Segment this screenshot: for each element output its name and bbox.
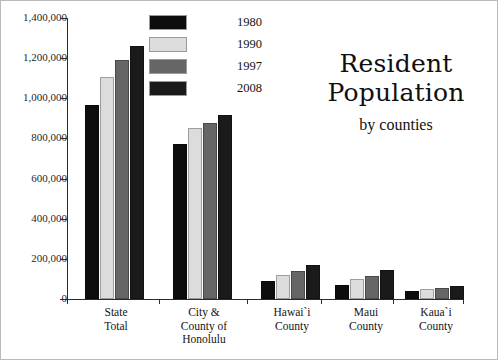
- legend-label-1980: 1980: [237, 14, 262, 30]
- y-tick: 600,000: [1, 179, 67, 180]
- legend: 1980 1990 1997 2008: [149, 13, 279, 101]
- legend-label-1997: 1997: [237, 58, 262, 74]
- bar: [291, 271, 305, 299]
- y-tick-mark: [60, 219, 67, 220]
- legend-item: 1980: [149, 13, 279, 33]
- y-tick-mark: [60, 179, 67, 180]
- y-tick: 1,000,000: [1, 98, 67, 99]
- bar: [350, 279, 364, 299]
- x-category-label: Kaua`i County: [391, 306, 481, 333]
- y-tick: 1,400,000: [1, 18, 67, 19]
- y-tick: 0: [1, 299, 67, 300]
- x-tick-mark: [159, 299, 160, 304]
- y-tick-label: 0: [11, 293, 67, 304]
- y-tick-mark: [60, 58, 67, 59]
- x-tick-mark: [463, 299, 464, 304]
- y-tick-mark: [60, 98, 67, 99]
- y-tick-mark: [60, 299, 67, 300]
- y-tick: 400,000: [1, 219, 67, 220]
- bar: [173, 144, 187, 299]
- legend-swatch-1990: [149, 37, 187, 52]
- chart-subtitle: by counties: [301, 116, 491, 134]
- bar: [130, 46, 144, 299]
- legend-label-1990: 1990: [237, 36, 262, 52]
- y-tick-mark: [60, 138, 67, 139]
- x-tick-mark: [393, 299, 394, 304]
- x-tick-mark: [67, 299, 68, 304]
- bar: [405, 291, 419, 299]
- bar: [365, 276, 379, 299]
- bar: [420, 289, 434, 299]
- y-tick: 1,200,000: [1, 58, 67, 59]
- y-tick: 200,000: [1, 259, 67, 260]
- x-tick-mark: [247, 299, 248, 304]
- legend-item: 1990: [149, 35, 279, 55]
- bar: [380, 270, 394, 299]
- y-tick-label: 1,400,000: [11, 12, 67, 23]
- legend-item: 1997: [149, 57, 279, 77]
- bar: [450, 286, 464, 299]
- legend-swatch-1997: [149, 59, 187, 74]
- bar: [188, 128, 202, 299]
- bar: [276, 275, 290, 299]
- legend-swatch-1980: [149, 15, 187, 30]
- bar: [218, 115, 232, 299]
- x-tick-mark: [321, 299, 322, 304]
- y-tick-label: 600,000: [11, 173, 67, 184]
- bar: [115, 60, 129, 299]
- bar: [435, 288, 449, 299]
- y-tick-label: 800,000: [11, 132, 67, 143]
- y-tick-label: 200,000: [11, 253, 67, 264]
- y-tick-mark: [60, 18, 67, 19]
- x-category-label: State Total: [71, 306, 161, 333]
- x-category-label: City & County of Honolulu: [159, 306, 249, 347]
- y-tick-label: 400,000: [11, 213, 67, 224]
- legend-swatch-2008: [149, 81, 187, 96]
- y-axis-line: [67, 18, 68, 300]
- legend-label-2008: 2008: [237, 80, 262, 96]
- legend-item: 2008: [149, 79, 279, 99]
- y-tick-label: 1,000,000: [11, 92, 67, 103]
- bar: [335, 285, 349, 299]
- bar: [85, 105, 99, 299]
- bar: [261, 281, 275, 299]
- y-tick: 800,000: [1, 138, 67, 139]
- chart-figure: 0200,000400,000600,000800,0001,000,0001,…: [0, 0, 498, 360]
- bar: [203, 123, 217, 299]
- chart-title-block: Resident Population by counties: [301, 49, 491, 134]
- chart-title-line-1: Resident: [301, 49, 491, 78]
- bar: [100, 77, 114, 299]
- chart-title-line-2: Population: [301, 78, 491, 107]
- y-tick-label: 1,200,000: [11, 52, 67, 63]
- x-axis-line: [67, 299, 463, 300]
- y-tick-mark: [60, 259, 67, 260]
- bar: [306, 265, 320, 299]
